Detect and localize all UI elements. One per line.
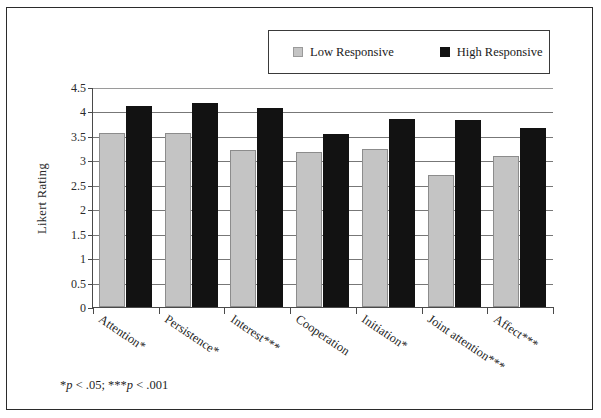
plot-area: 00.511.522.533.544.5 — [92, 88, 553, 308]
legend-entry-high-responsive: High Responsive — [440, 45, 543, 60]
bar-low-responsive — [493, 156, 519, 307]
chart-legend: Low Responsive High Responsive — [268, 30, 550, 74]
y-tick-label: 0 — [80, 301, 86, 316]
legend-label-high: High Responsive — [457, 45, 543, 60]
legend-entry-low-responsive: Low Responsive — [293, 45, 394, 60]
bar-high-responsive — [257, 108, 283, 307]
y-tick-label: 1.5 — [71, 227, 86, 242]
bar-group — [93, 88, 159, 307]
y-axis-title-text: Likert Rating — [35, 163, 50, 234]
significance-footnote: *p < .05; ***p < .001 — [60, 378, 168, 393]
y-axis-title: Likert Rating — [34, 88, 50, 308]
bar-group — [159, 88, 225, 307]
y-tick-label: 3.5 — [71, 129, 86, 144]
x-axis-category-label: Affect*** — [491, 312, 541, 353]
y-tick-label: 4 — [80, 105, 86, 120]
bar-group — [224, 88, 290, 307]
bar-group — [422, 88, 488, 307]
y-tick-label: 0.5 — [71, 276, 86, 291]
x-axis-category-label: Attention* — [95, 312, 148, 354]
bar-high-responsive — [455, 120, 481, 307]
y-tick-label: 2.5 — [71, 178, 86, 193]
x-axis-category-label: Interest*** — [227, 312, 282, 356]
bar-low-responsive — [165, 133, 191, 307]
bars-layer — [93, 88, 553, 307]
footnote-rest1: < .05; — [73, 378, 109, 392]
bar-low-responsive — [362, 149, 388, 307]
legend-label-low: Low Responsive — [310, 45, 394, 60]
legend-swatch-low-icon — [293, 47, 303, 57]
y-tick-label: 1 — [80, 252, 86, 267]
y-tick-label: 4.5 — [71, 81, 86, 96]
bar-high-responsive — [520, 128, 546, 307]
bar-high-responsive — [192, 103, 218, 307]
x-axis-category-label: Cooperation — [293, 312, 353, 359]
bar-group — [356, 88, 422, 307]
bar-low-responsive — [230, 150, 256, 307]
x-axis-category-label: Persistence* — [161, 312, 221, 359]
bar-high-responsive — [389, 119, 415, 307]
bar-low-responsive — [99, 133, 125, 307]
plot-wrapper: 00.511.522.533.544.5 — [92, 88, 553, 308]
bar-group — [487, 88, 553, 307]
y-tick-label: 3 — [80, 154, 86, 169]
bar-low-responsive — [296, 152, 322, 307]
bar-high-responsive — [323, 134, 349, 307]
x-axis-category-label: Initiation* — [359, 312, 411, 354]
legend-swatch-high-icon — [440, 47, 450, 57]
footnote-rest2: < .001 — [133, 378, 168, 392]
footnote-star3: *** — [108, 378, 127, 392]
bar-high-responsive — [126, 106, 152, 307]
x-tick-mark — [553, 307, 554, 314]
y-tick-label: 2 — [80, 203, 86, 218]
bar-low-responsive — [428, 175, 454, 307]
figure-container: Low Responsive High Responsive Likert Ra… — [0, 0, 601, 418]
bar-group — [290, 88, 356, 307]
